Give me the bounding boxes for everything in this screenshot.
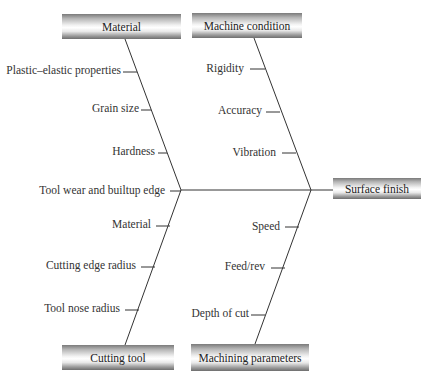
category-label: Machining parameters xyxy=(198,352,301,364)
cause-label: Cutting edge radius xyxy=(46,259,136,271)
effect-label: Surface finish xyxy=(345,183,409,195)
category-label: Cutting tool xyxy=(90,352,145,364)
material-bone xyxy=(125,39,181,190)
effect-box-surface-finish: Surface finish xyxy=(333,178,421,199)
category-label: Material xyxy=(102,21,141,33)
cause-label: Rigidity xyxy=(206,62,244,74)
category-box-machining-parameters: Machining parameters xyxy=(191,344,309,371)
cause-label: Tool nose radius xyxy=(44,302,120,314)
cause-label: Grain size xyxy=(92,102,139,114)
cause-label: Plastic–elastic properties xyxy=(6,64,121,76)
cause-label: Speed xyxy=(252,220,280,232)
cause-label: Accuracy xyxy=(218,104,262,116)
cause-label: Depth of cut xyxy=(192,307,249,319)
machine-condition-bone xyxy=(254,38,311,190)
cause-label: Vibration xyxy=(233,146,276,158)
category-box-material: Material xyxy=(62,14,181,39)
cause-label: Material xyxy=(112,218,151,230)
cause-label: Tool wear and builtup edge xyxy=(39,184,165,196)
cause-label: Feed/rev xyxy=(225,260,265,272)
category-box-machine-condition: Machine condition xyxy=(192,13,302,38)
category-box-cutting-tool: Cutting tool xyxy=(62,345,174,370)
cause-label: Hardness xyxy=(112,145,155,157)
category-label: Machine condition xyxy=(204,20,291,32)
